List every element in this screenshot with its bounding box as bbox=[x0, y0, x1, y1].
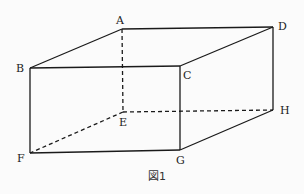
vertex-label-G: G bbox=[176, 154, 185, 167]
vertex-label-D: D bbox=[278, 20, 287, 33]
cuboid-diagram: A B C D E F G H 図1 bbox=[0, 0, 304, 194]
hidden-edge-AE bbox=[122, 29, 123, 112]
vertex-label-B: B bbox=[16, 62, 24, 75]
edge-FG bbox=[30, 150, 180, 153]
vertex-label-F: F bbox=[17, 152, 25, 165]
edge-GH bbox=[180, 110, 273, 150]
figure-caption: 図1 bbox=[148, 170, 166, 183]
edge-CD bbox=[180, 27, 273, 66]
hidden-edge-EH bbox=[123, 110, 273, 112]
vertex-label-A: A bbox=[115, 14, 125, 27]
edge-AD bbox=[122, 27, 273, 29]
vertex-label-C: C bbox=[183, 69, 191, 82]
vertex-label-H: H bbox=[280, 104, 290, 117]
hidden-edge-EF bbox=[30, 112, 123, 153]
edge-AB bbox=[30, 29, 122, 68]
vertex-label-E: E bbox=[119, 116, 127, 129]
edge-BC bbox=[30, 66, 180, 68]
